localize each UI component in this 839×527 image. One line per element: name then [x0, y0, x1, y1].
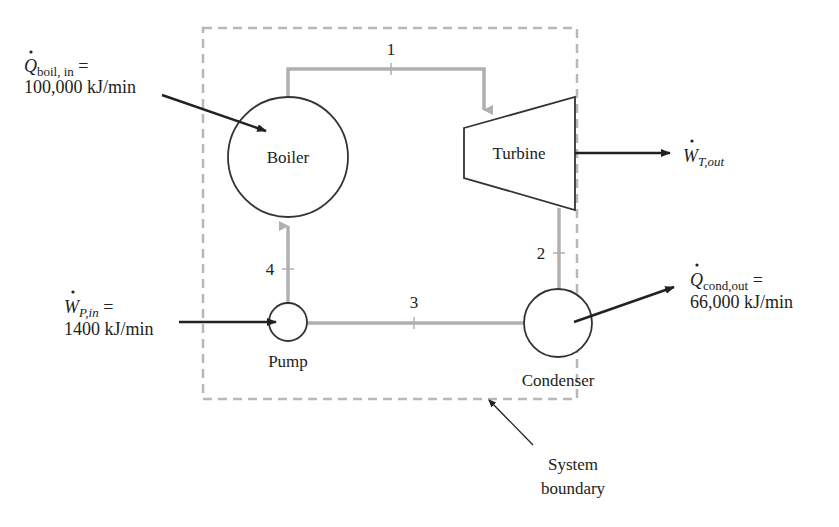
boiler-label: Boiler — [267, 148, 310, 167]
state-1-label: 1 — [387, 40, 396, 59]
dot-overline — [29, 50, 32, 53]
w-turbine-out-label: WT,out — [683, 139, 725, 169]
condenser-label: Condenser — [522, 371, 595, 390]
q-boil-value: 100,000 kJ/min — [24, 77, 136, 97]
system-boundary — [203, 28, 577, 399]
state-4-label: 4 — [266, 260, 275, 279]
q-cond-equals: = — [748, 270, 763, 290]
q-cond-symbol: Q — [690, 270, 703, 290]
dot-overline — [695, 263, 698, 266]
dot-overline — [71, 290, 74, 293]
boundary-label-line2: boundary — [541, 479, 606, 498]
q-cond-value: 66,000 kJ/min — [690, 292, 793, 312]
dot-overline — [690, 139, 693, 142]
boundary-label-line1: System — [548, 455, 598, 474]
q-boil-in-label: Qboil, in = 100,000 kJ/min — [24, 50, 136, 97]
w-pump-in-label: WP,in = 1400 kJ/min — [64, 290, 154, 339]
svg-text:Qcond,out =: Qcond,out = — [690, 270, 763, 293]
condenser-shape — [524, 289, 592, 357]
q-cond-out-arrow — [574, 287, 674, 322]
svg-text:WP,in =: WP,in = — [64, 297, 113, 320]
state-2-label: 2 — [537, 244, 546, 263]
power-cycle-diagram: Boiler Turbine Condenser Pump 1 2 3 4 Qb… — [0, 0, 839, 527]
q-boil-symbol: Q — [24, 56, 37, 76]
w-turbine-subscript: T,out — [698, 154, 725, 169]
q-cond-subscript: cond,out — [703, 278, 749, 293]
w-pump-value: 1400 kJ/min — [64, 319, 154, 339]
w-pump-equals: = — [99, 297, 114, 317]
pump-label: Pump — [268, 352, 308, 371]
boundary-pointer-arrow — [489, 400, 533, 445]
q-boil-equals: = — [74, 56, 89, 76]
q-cond-out-label: Qcond,out = 66,000 kJ/min — [690, 263, 793, 312]
w-pump-subscript: P,in — [78, 305, 99, 320]
svg-text:WT,out: WT,out — [683, 146, 725, 169]
svg-text:Qboil, in =: Qboil, in = — [24, 56, 89, 79]
state-3-label: 3 — [410, 293, 419, 312]
turbine-label: Turbine — [492, 144, 545, 163]
